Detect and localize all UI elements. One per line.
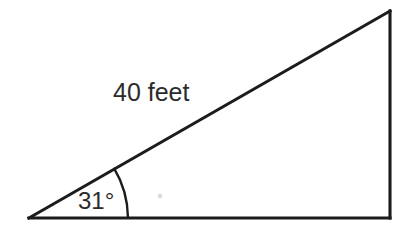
triangle-figure: 40 feet 31° [0, 0, 409, 235]
base-angle-label: 31° [78, 187, 114, 214]
triangle-diagram: 40 feet 31° [0, 0, 409, 235]
hypotenuse-length-label: 40 feet [113, 78, 190, 106]
interior-dot-mark [158, 194, 162, 198]
angle-arc [114, 168, 128, 218]
